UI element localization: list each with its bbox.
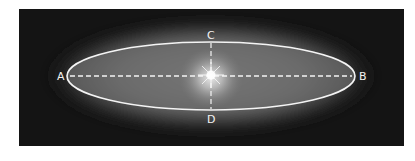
label-a: A — [57, 70, 65, 83]
ellipse-diagram: A B C D — [0, 0, 415, 161]
label-d: D — [207, 113, 215, 126]
label-c: C — [207, 29, 215, 42]
label-b: B — [359, 70, 367, 83]
